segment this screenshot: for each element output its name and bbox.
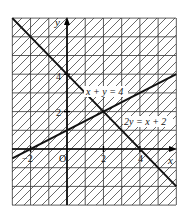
hatch-line	[176, 8, 184, 215]
graph-figure: y x O −2 2 4 2 4 x + y = 4 2y = x + 2	[0, 0, 184, 220]
hatch-line	[0, 8, 5, 215]
y-axis-label: y	[54, 16, 60, 28]
x-axis-label: x	[167, 154, 173, 166]
x-tick-label-4: 4	[138, 153, 143, 164]
hatch-line	[0, 8, 14, 215]
origin-label: O	[59, 153, 66, 164]
x-tick-label-2: 2	[101, 153, 106, 164]
grid-lines	[12, 18, 176, 205]
line-label-2y-eq-x-plus-2: 2y = x + 2	[124, 116, 166, 127]
coordinate-plane: y x O −2 2 4 2 4 x + y = 4 2y = x + 2	[0, 0, 184, 220]
y-tick-label-2: 2	[56, 107, 61, 118]
line-label-x-plus-y-eq-4: x + y = 4	[85, 86, 123, 97]
y-tick-label-4: 4	[56, 71, 61, 82]
labels: y x O −2 2 4 2 4 x + y = 4 2y = x + 2	[22, 16, 173, 166]
x-tick-label-neg2: −2	[22, 153, 33, 164]
x-axis-arrow-icon	[169, 146, 177, 152]
